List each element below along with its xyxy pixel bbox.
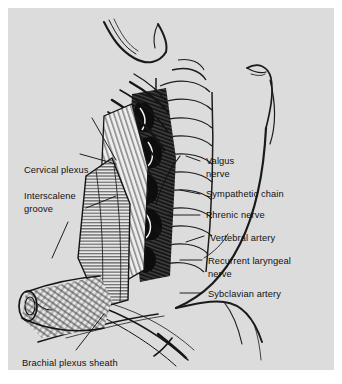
anatomical-figure-panel: Cervical plexus Interscalene groove Brac…: [8, 8, 334, 370]
label-valgus-nerve: Valgus: [206, 156, 234, 167]
chin-outline: [104, 19, 167, 62]
label-phrenic-nerve: Phrenic nerve: [206, 210, 265, 221]
anatomy-illustration: [8, 8, 334, 370]
label-recurrent-laryngeal-nerve-line2: nerve: [208, 269, 232, 280]
label-brachial-plexus-sheath: Brachial plexus sheath: [22, 358, 118, 369]
label-sympathetic-chain: Sympathetic chain: [206, 189, 284, 200]
label-subclavian-artery: Sybclavian artery: [208, 289, 281, 300]
plexus-sheath: [96, 304, 194, 366]
label-cervical-plexus: Cervical plexus: [24, 165, 89, 176]
label-vertebral-artery: Vertebral artery: [210, 233, 275, 244]
label-interscalene-groove-line2: groove: [24, 204, 53, 215]
label-interscalene-groove: Interscalene: [24, 191, 76, 202]
ear-outline: [247, 65, 272, 128]
label-recurrent-laryngeal-nerve: Recurrent laryngeal: [208, 256, 291, 267]
clavicle-cut-end: [18, 272, 118, 342]
label-valgus-nerve-line2: nerve: [206, 169, 230, 180]
